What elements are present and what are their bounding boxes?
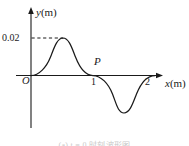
wave-plot-svg xyxy=(0,0,189,146)
y-axis-arrow-icon xyxy=(28,7,34,14)
origin-label: O xyxy=(22,76,30,87)
y-axis-unit: (m) xyxy=(41,6,57,18)
figure-caption: (a) t = 0 时刻波形图 xyxy=(0,139,189,146)
wave-form-figure: y(m) x(m) 0.02 O 1 2 P (a) t = 0 时刻波形图 xyxy=(0,0,189,146)
x-tick-label-1: 1 xyxy=(91,77,96,87)
point-p-label: P xyxy=(94,56,101,67)
x-axis-title: x(m) xyxy=(165,78,186,89)
x-axis-arrow-icon xyxy=(156,73,163,79)
x-tick-label-2: 2 xyxy=(145,77,150,87)
y-value-label-002: 0.02 xyxy=(2,33,20,43)
x-axis-unit: (m) xyxy=(170,77,186,89)
y-axis-title: y(m) xyxy=(36,7,57,18)
